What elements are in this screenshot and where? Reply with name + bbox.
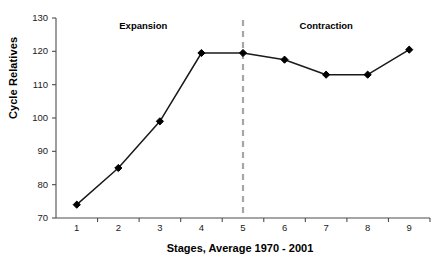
x-tick-label: 1 bbox=[67, 222, 87, 233]
y-tick-label: 110 bbox=[22, 79, 48, 90]
y-tick-label: 70 bbox=[22, 212, 48, 223]
x-tick-label: 7 bbox=[316, 222, 336, 233]
chart-annotation-expansion: Expansion bbox=[119, 20, 167, 31]
y-tick-label: 100 bbox=[22, 112, 48, 123]
x-tick-label: 6 bbox=[275, 222, 295, 233]
y-tick-label: 130 bbox=[22, 12, 48, 23]
x-tick-label: 4 bbox=[191, 222, 211, 233]
data-point-markers bbox=[73, 46, 413, 208]
x-tick-label: 5 bbox=[233, 222, 253, 233]
y-tick-label: 120 bbox=[22, 45, 48, 56]
x-tick-label: 9 bbox=[399, 222, 419, 233]
x-tick-label: 8 bbox=[358, 222, 378, 233]
data-series-line bbox=[77, 50, 409, 205]
chart-annotation-contraction: Contraction bbox=[300, 20, 353, 31]
x-tick-label: 2 bbox=[108, 222, 128, 233]
chart-axes bbox=[52, 18, 430, 222]
x-axis-title: Stages, Average 1970 - 2001 bbox=[60, 242, 420, 254]
y-axis-title: Cycle Relatives bbox=[7, 18, 19, 138]
y-tick-label: 90 bbox=[22, 145, 48, 156]
x-tick-label: 3 bbox=[150, 222, 170, 233]
chart-figure: Cycle Relatives Stages, Average 1970 - 2… bbox=[0, 0, 448, 265]
y-tick-label: 80 bbox=[22, 179, 48, 190]
